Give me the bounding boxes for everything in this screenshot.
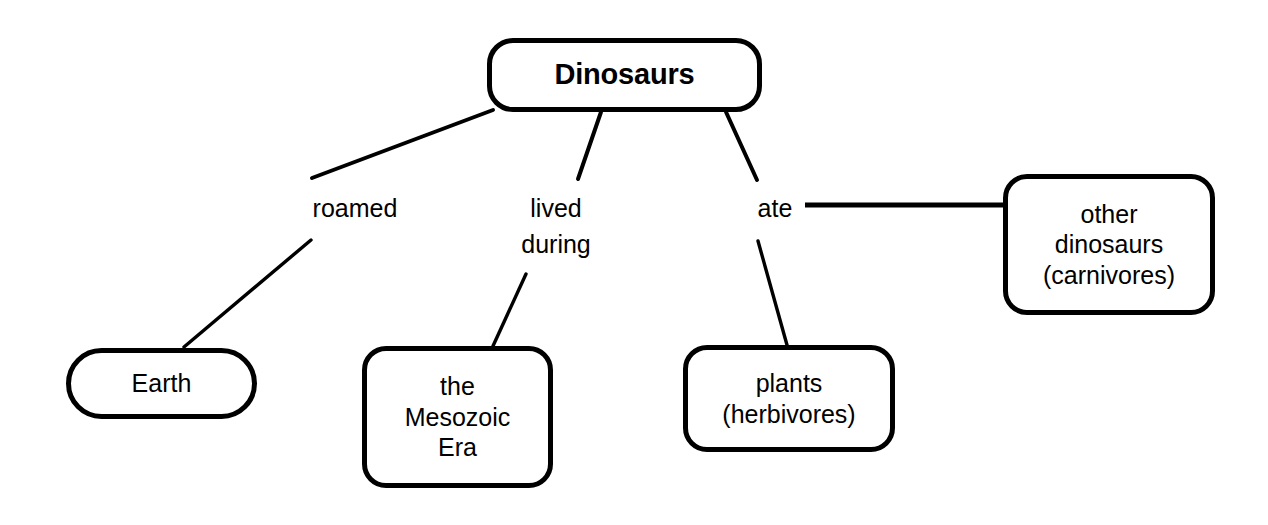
edge-label-ate: ate bbox=[722, 190, 828, 226]
node-dinosaurs[interactable]: Dinosaurs bbox=[487, 38, 762, 112]
node-earth-label: Earth bbox=[128, 368, 196, 399]
edge-ate-to-plants bbox=[758, 241, 787, 345]
edge-root-to-ate bbox=[726, 112, 757, 180]
node-plants-herbivores[interactable]: plants (herbivores) bbox=[683, 345, 895, 452]
edge-root-to-lived-during bbox=[578, 112, 601, 179]
node-mesozoic-era[interactable]: the Mesozoic Era bbox=[362, 346, 553, 488]
node-earth[interactable]: Earth bbox=[66, 348, 257, 419]
edge-label-lived-during: lived during bbox=[486, 190, 626, 263]
node-plants-herbivores-label: plants (herbivores) bbox=[718, 368, 859, 429]
edge-roamed-to-earth bbox=[184, 240, 311, 347]
edge-label-roamed: roamed bbox=[285, 190, 425, 226]
node-other-dinosaurs-carnivores[interactable]: other dinosaurs (carnivores) bbox=[1003, 174, 1215, 315]
edge-root-to-roamed bbox=[312, 110, 493, 178]
node-other-dinosaurs-carnivores-label: other dinosaurs (carnivores) bbox=[1039, 199, 1179, 291]
edge-lived-during-to-mesozoic bbox=[493, 274, 526, 346]
concept-map-canvas: Dinosaurs Earth the Mesozoic Era plants … bbox=[0, 0, 1268, 525]
node-dinosaurs-label: Dinosaurs bbox=[550, 57, 698, 92]
node-mesozoic-era-label: the Mesozoic Era bbox=[401, 371, 515, 463]
